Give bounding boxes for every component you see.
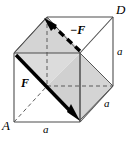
label-vertex-d: D	[116, 3, 125, 16]
label-edge-right-vertical-a: a	[117, 46, 123, 57]
label-force-negative-f: −F	[70, 24, 85, 36]
hidden-edge-front-bottom-left-to-back-bottom-left	[14, 86, 47, 122]
cube-diagram-svg	[0, 0, 130, 141]
label-force-f: F	[21, 77, 29, 89]
label-vertex-a: A	[2, 119, 10, 132]
cube-force-diagram: A D a a a F −F	[0, 0, 130, 141]
label-edge-bottom-a: a	[43, 124, 49, 135]
label-edge-depth-a: a	[104, 98, 110, 109]
